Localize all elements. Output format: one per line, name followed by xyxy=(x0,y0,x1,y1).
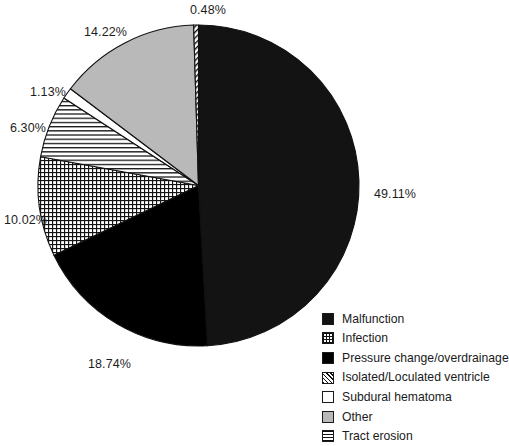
legend-item[interactable]: Tract erosion xyxy=(322,427,494,446)
legend-item[interactable]: Malfunction xyxy=(322,309,494,329)
legend-swatch-icon xyxy=(322,332,334,344)
legend-item[interactable]: Infection xyxy=(322,329,494,349)
legend-item-label: Tract erosion xyxy=(342,430,413,442)
legend-item-label: Pressure change/overdrainage xyxy=(342,352,509,364)
pie-percent-label: 6.30% xyxy=(10,122,46,135)
pie-percent-label: 0.48% xyxy=(190,4,226,17)
legend-item[interactable]: Isolated/Loculated ventricle xyxy=(322,368,494,388)
pie-percent-label: 14.22% xyxy=(84,26,127,39)
legend-item[interactable]: Pressure change/overdrainage xyxy=(322,348,494,368)
legend-item[interactable]: Other xyxy=(322,407,494,427)
legend-item-label: Malfunction xyxy=(342,313,404,325)
pie-percent-label: 10.02% xyxy=(4,214,47,227)
legend-item-label: Isolated/Loculated ventricle xyxy=(342,371,490,383)
legend-swatch-icon xyxy=(322,352,334,364)
pie-slice[interactable] xyxy=(199,25,360,346)
legend-item[interactable]: Subdural hematoma xyxy=(322,387,494,407)
pie-percent-label: 18.74% xyxy=(88,358,131,371)
legend-swatch-icon xyxy=(322,411,334,423)
chart-legend: MalfunctionInfectionPressure change/over… xyxy=(322,309,494,446)
pie-percent-label: 49.11% xyxy=(374,188,416,201)
pie-slices-group xyxy=(38,25,359,346)
legend-item-label: Subdural hematoma xyxy=(342,391,452,403)
legend-swatch-icon xyxy=(322,313,334,325)
legend-item-label: Other xyxy=(342,411,372,423)
legend-swatch-icon xyxy=(322,372,334,384)
legend-swatch-icon xyxy=(322,391,334,403)
legend-swatch-icon xyxy=(322,430,334,442)
pie-percent-label: 1.13% xyxy=(30,86,66,99)
legend-item-label: Infection xyxy=(342,332,388,344)
